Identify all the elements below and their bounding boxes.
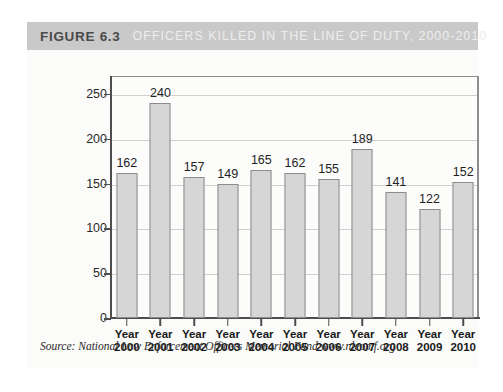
- x-axis-tick-label-line: Year: [383, 328, 409, 341]
- x-axis-tick-mark: [328, 319, 330, 326]
- bar[interactable]: [352, 149, 373, 318]
- y-axis-tick-mark: [104, 139, 111, 141]
- bar-value-label: 162: [116, 156, 137, 170]
- x-axis: Year2000Year2001Year2002Year2003Year2004…: [110, 319, 480, 359]
- y-axis-tick-mark: [104, 94, 111, 96]
- x-axis-tick-label-line: Year: [249, 328, 275, 341]
- x-axis-tick-mark: [261, 319, 263, 326]
- x-axis-tick-mark: [395, 319, 397, 326]
- bar[interactable]: [453, 182, 474, 318]
- bar-value-label: 157: [184, 160, 205, 174]
- x-axis-tick-label: Year2010: [450, 328, 476, 353]
- y-axis: 050100150200250: [55, 22, 107, 368]
- x-axis-tick-label-line: Year: [148, 328, 174, 341]
- x-axis-tick-label-line: Year: [316, 328, 342, 341]
- x-axis-tick-label-line: Year: [114, 328, 140, 341]
- bar-slot: 149: [211, 76, 245, 318]
- figure-card: FIGURE 6.3 OFFICERS KILLED IN THE LINE O…: [27, 22, 478, 368]
- bars-layer: 162240157149165162155189141122152: [110, 76, 480, 318]
- x-axis-tick-mark: [193, 319, 195, 326]
- x-axis-tick-label-line: 2009: [417, 341, 443, 354]
- bar-slot: 162: [278, 76, 312, 318]
- bar-value-label: 240: [150, 86, 171, 100]
- bar-slot: 122: [413, 76, 447, 318]
- y-axis-tick-label: 100: [63, 221, 107, 235]
- x-axis-tick-mark: [462, 319, 464, 326]
- bar[interactable]: [284, 173, 305, 318]
- bar-slot: 240: [144, 76, 178, 318]
- bar[interactable]: [116, 173, 137, 318]
- x-axis-tick-label-line: Year: [450, 328, 476, 341]
- y-axis-tick-label: 200: [63, 132, 107, 146]
- y-axis-tick-label: 250: [63, 87, 107, 101]
- bar-slot: 157: [177, 76, 211, 318]
- x-axis-tick-mark: [160, 319, 162, 326]
- bar-value-label: 155: [318, 162, 339, 176]
- bar-value-label: 122: [419, 192, 440, 206]
- bar-slot: 162: [110, 76, 144, 318]
- x-axis-tick-mark: [126, 319, 128, 326]
- x-axis-tick-mark: [227, 319, 229, 326]
- bar-slot: 152: [446, 76, 480, 318]
- y-axis-tick-label: 150: [63, 177, 107, 191]
- x-axis-tick-mark: [362, 319, 364, 326]
- y-axis-tick-mark: [104, 273, 111, 275]
- y-axis-tick-mark: [104, 318, 111, 320]
- x-axis-tick-label-line: Year: [282, 328, 308, 341]
- bar[interactable]: [251, 170, 272, 318]
- bar-slot: 189: [345, 76, 379, 318]
- x-axis-tick-mark: [294, 319, 296, 326]
- bar[interactable]: [184, 177, 205, 318]
- bar-value-label: 162: [285, 156, 306, 170]
- x-axis-tick-label-line: Year: [349, 328, 375, 341]
- x-axis-tick-label-line: Year: [417, 328, 443, 341]
- bar[interactable]: [150, 103, 171, 318]
- y-axis-tick-mark: [104, 184, 111, 186]
- bar-value-label: 165: [251, 153, 272, 167]
- bar[interactable]: [318, 179, 339, 318]
- bar[interactable]: [385, 192, 406, 318]
- bar-slot: 141: [379, 76, 413, 318]
- x-axis-tick-label: Year2009: [417, 328, 443, 353]
- bar[interactable]: [217, 184, 238, 318]
- bar-value-label: 189: [352, 132, 373, 146]
- bar-value-label: 141: [385, 175, 406, 189]
- x-axis-tick-label-line: Year: [215, 328, 241, 341]
- bar-slot: 155: [312, 76, 346, 318]
- y-axis-tick-mark: [104, 228, 111, 230]
- x-axis-tick-label-line: Year: [181, 328, 207, 341]
- source-note: Source: National Law Enforcement Officer…: [40, 340, 395, 352]
- x-axis-tick-mark: [429, 319, 431, 326]
- bar-slot: 165: [245, 76, 279, 318]
- bar-value-label: 152: [453, 165, 474, 179]
- y-axis-tick-label: 50: [63, 266, 107, 280]
- bar[interactable]: [419, 209, 440, 318]
- x-axis-tick-label-line: 2010: [450, 341, 476, 354]
- y-axis-tick-label: 0: [63, 311, 107, 325]
- bar-value-label: 149: [217, 167, 238, 181]
- figure-caption: OFFICERS KILLED IN THE LINE OF DUTY, 200…: [133, 29, 488, 43]
